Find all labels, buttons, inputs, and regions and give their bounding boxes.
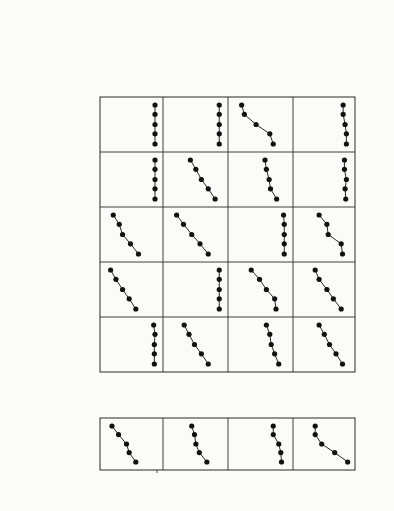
data-point [343,122,348,127]
clone-column-2 [174,102,222,464]
data-point [317,277,322,282]
clone-column-4 [313,102,351,464]
series-line [113,215,138,254]
data-point [343,196,348,201]
data-point [182,322,187,327]
data-point [217,277,222,282]
data-point [345,459,350,464]
data-point [282,232,287,237]
data-point [264,167,269,172]
data-point [317,212,322,217]
data-point [344,177,349,182]
data-point [324,287,329,292]
data-point [120,287,125,292]
data-point [268,186,273,191]
data-point [111,212,116,217]
data-point [189,232,194,237]
data-point [204,459,209,464]
data-point [282,241,287,246]
data-point [116,432,121,437]
series-line [112,426,136,462]
data-point [326,232,331,237]
data-point [331,296,336,301]
data-point [319,441,324,446]
data-point [113,277,118,282]
data-point [278,450,283,455]
data-point [152,196,157,201]
data-point [313,423,318,428]
data-point [267,131,272,136]
clone-column-3 [239,102,287,464]
data-point [339,241,344,246]
data-point [174,212,179,217]
data-point [272,296,277,301]
data-point [242,112,247,117]
data-point [152,141,157,146]
data-point [197,241,202,246]
data-point [197,450,202,455]
data-point [217,131,222,136]
data-point [264,322,269,327]
data-point [264,287,269,292]
data-point [333,351,338,356]
data-point [341,102,346,107]
data-point [217,306,222,311]
data-point [339,306,344,311]
data-point [133,459,138,464]
data-point [279,459,284,464]
data-point [273,306,278,311]
data-point [274,196,279,201]
data-point [152,186,157,191]
data-point [322,332,327,337]
data-point [276,361,281,366]
data-point [151,322,156,327]
data-point [342,157,347,162]
data-point [133,306,138,311]
data-point [128,241,133,246]
data-point [152,112,157,117]
data-point [313,267,318,272]
data-point [276,441,281,446]
data-point [152,177,157,182]
data-point [117,222,122,227]
data-point [267,177,272,182]
data-point [189,423,194,428]
data-point [193,167,198,172]
data-point [124,441,129,446]
data-point [340,251,345,256]
data-point [341,112,346,117]
data-point [181,222,186,227]
data-point [199,177,204,182]
data-point [217,122,222,127]
data-point [152,342,157,347]
data-point [152,361,157,366]
data-point [342,167,347,172]
data-point [267,332,272,337]
data-point [239,102,244,107]
data-point [271,141,276,146]
data-point [152,332,157,337]
data-point [324,222,329,227]
data-point [272,351,277,356]
data-point [344,131,349,136]
data-point [152,351,157,356]
data-point [332,450,337,455]
data-point [152,157,157,162]
data-point [199,351,204,356]
data-point [152,167,157,172]
clone-column-1 [108,102,158,464]
data-point [313,432,318,437]
data-point [109,423,114,428]
data-point [217,102,222,107]
data-point [188,157,193,162]
data-point [192,432,197,437]
data-point [281,212,286,217]
series-line [251,270,276,309]
data-point [206,251,211,256]
data-point [186,332,191,337]
data-point [271,432,276,437]
data-point [262,157,267,162]
data-point [317,322,322,327]
data-point [217,287,222,292]
data-point [120,232,125,237]
